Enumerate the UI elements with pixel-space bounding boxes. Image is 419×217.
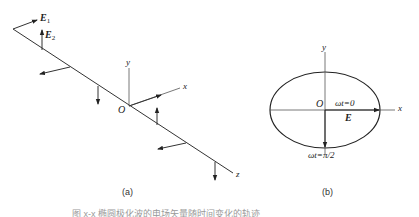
label-z-axis-a: z: [236, 170, 240, 179]
z-axis-line: [13, 29, 233, 173]
field-arrow-left-2: [158, 143, 186, 149]
label-e1: E1: [40, 13, 50, 23]
figure-caption: 图 x-x 椭圆极化波的电场矢量随时间变化的轨迹: [72, 207, 260, 217]
field-arrow-left-1: [40, 67, 70, 74]
label-y-axis-b: y: [322, 43, 326, 52]
label-origin-a: O: [118, 105, 125, 115]
label-wt-zero: ωt=0: [335, 99, 354, 108]
label-x-axis-b: x: [398, 104, 402, 113]
label-e-vector-b: E: [345, 113, 352, 123]
label-e2: E2: [45, 30, 55, 40]
label-origin-b: O: [316, 99, 323, 109]
subcaption-a: (a): [122, 187, 133, 197]
field-arrow-right-origin: [129, 95, 161, 106]
diagram-canvas: [0, 0, 419, 217]
subcaption-b: (b): [322, 187, 333, 197]
label-x-axis-a: x: [183, 82, 187, 91]
label-y-axis-a: y: [126, 58, 130, 67]
figure-a: [13, 20, 233, 180]
figure-b: [270, 52, 395, 155]
e1-vector-arrow: [13, 20, 37, 29]
label-wt-pi-half: ωt=π/2: [308, 151, 334, 160]
